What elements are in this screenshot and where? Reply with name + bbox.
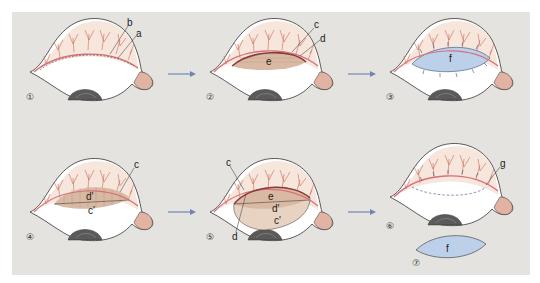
step-4: c d' c' ④ — [26, 158, 153, 242]
arrow-5-6 — [348, 209, 376, 215]
label-d: d — [320, 33, 326, 44]
step-number-6: ⑥ — [386, 221, 394, 231]
step-2: c d e ② — [206, 18, 333, 102]
arrow-2-3 — [348, 71, 376, 77]
label-c: c — [226, 157, 231, 168]
label-c-prime: c' — [274, 215, 281, 226]
step-5: c e d' c' d ⑤ — [206, 157, 333, 242]
arrow-4-5 — [168, 209, 196, 215]
step-3: f ③ — [386, 18, 513, 102]
step-number-2: ② — [206, 92, 214, 102]
step-number-7: ⑦ — [412, 258, 420, 268]
procedure-diagram: b a ① c d e ② — [0, 0, 540, 283]
step-7: f ⑦ — [412, 236, 486, 268]
label-g: g — [500, 158, 506, 169]
step-number-5: ⑤ — [206, 232, 214, 242]
step-number-4: ④ — [26, 232, 34, 242]
label-c-prime: c' — [88, 205, 95, 216]
label-b: b — [127, 17, 133, 28]
label-e: e — [266, 56, 272, 67]
step-number-1: ① — [26, 92, 34, 102]
label-c: c — [134, 159, 139, 170]
label-d-prime: d' — [86, 191, 94, 202]
label-f: f — [446, 243, 449, 254]
step-1: b a ① — [26, 17, 153, 102]
arrow-1-2 — [168, 71, 196, 77]
step-number-3: ③ — [386, 92, 394, 102]
label-f: f — [449, 53, 452, 64]
label-e: e — [268, 191, 274, 202]
label-d-prime: d' — [272, 203, 280, 214]
label-a: a — [136, 28, 142, 39]
label-d: d — [232, 231, 238, 242]
label-c: c — [314, 19, 319, 30]
step-6: g ⑥ — [386, 143, 513, 231]
